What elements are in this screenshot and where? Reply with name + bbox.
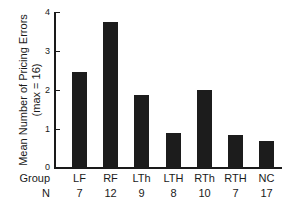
bar-rth: [228, 135, 243, 168]
y-axis-title: Mean Number of Pricing Errors: [17, 14, 30, 166]
y-tick-1: [56, 129, 60, 130]
y-tick-label: 2: [40, 86, 50, 95]
y-tick-label: 0: [40, 163, 50, 172]
bar-rth: [197, 90, 212, 168]
category-label: RTh: [189, 172, 220, 184]
category-label: LF: [64, 172, 95, 184]
y-tick-label: 3: [40, 47, 50, 56]
n-value: 17: [251, 187, 282, 199]
bar-nc: [259, 141, 274, 168]
category-label: RTH: [220, 172, 251, 184]
n-row-header: N: [10, 187, 50, 199]
y-tick-3: [56, 51, 60, 52]
n-value: 9: [126, 187, 157, 199]
group-row-header: Group: [10, 172, 50, 184]
y-tick-label: 1: [40, 125, 50, 134]
y-tick-2: [56, 90, 60, 91]
y-tick-4: [56, 12, 60, 13]
category-label: RF: [95, 172, 126, 184]
bar-lth: [166, 133, 181, 168]
n-value: 8: [158, 187, 189, 199]
bar-lf: [72, 72, 87, 168]
category-label: NC: [251, 172, 282, 184]
y-tick-label: 4: [40, 8, 50, 17]
n-value: 7: [220, 187, 251, 199]
n-value: 10: [189, 187, 220, 199]
category-label: LTH: [158, 172, 189, 184]
bar-lth: [134, 95, 149, 168]
n-value: 12: [95, 187, 126, 199]
bar-rf: [103, 22, 118, 168]
bar-chart: Mean Number of Pricing Errors (max = 16)…: [0, 0, 297, 209]
n-value: 7: [64, 187, 95, 199]
category-label: LTh: [126, 172, 157, 184]
